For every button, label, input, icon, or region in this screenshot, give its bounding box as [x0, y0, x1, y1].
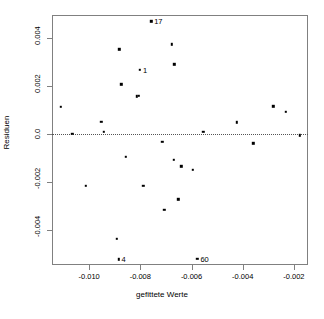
y-axis-tick-label: -0.004	[33, 223, 42, 237]
x-axis-tick	[294, 265, 295, 270]
data-point	[161, 140, 163, 142]
data-point	[298, 134, 300, 136]
data-point	[120, 83, 122, 85]
data-point	[139, 68, 141, 70]
y-axis-title: Residuen	[2, 103, 11, 163]
y-axis-tick	[47, 38, 52, 39]
plot-data-area: 171460	[52, 15, 308, 265]
x-axis-title: gefittete Werte	[0, 290, 324, 299]
x-axis-tick-label: -0.006	[181, 272, 202, 281]
y-axis-tick-label: -0.002	[33, 175, 42, 189]
data-point	[103, 131, 105, 133]
data-point	[71, 132, 73, 134]
data-point	[138, 94, 140, 96]
data-point	[60, 106, 62, 108]
point-index-label: 60	[200, 254, 208, 263]
x-axis-tick	[243, 265, 244, 270]
data-point	[85, 185, 87, 187]
data-point	[100, 121, 102, 123]
y-axis-tick-label: 0.0	[33, 127, 42, 141]
data-point	[202, 130, 204, 132]
x-axis-tick	[140, 265, 141, 270]
x-axis-tick	[192, 265, 193, 270]
data-point	[172, 159, 174, 161]
data-point	[150, 20, 152, 22]
x-axis-tick-label: -0.008	[130, 272, 151, 281]
x-axis-tick-label: -0.004	[232, 272, 253, 281]
data-point	[285, 110, 287, 112]
point-index-label: 17	[154, 17, 162, 26]
data-point	[142, 185, 144, 187]
y-axis-tick-label: 0.002	[33, 79, 42, 93]
residual-scatter-plot: 171460 -0.010-0.008-0.006-0.004-0.0020.0…	[0, 0, 324, 319]
y-axis-tick	[47, 86, 52, 87]
data-point	[117, 258, 119, 260]
data-point	[173, 63, 175, 65]
point-index-label: 4	[122, 255, 126, 264]
x-axis-tick-label: -0.010	[78, 272, 99, 281]
data-point	[180, 165, 182, 167]
data-point	[171, 43, 173, 45]
y-axis-tick	[47, 230, 52, 231]
data-point	[272, 105, 274, 107]
data-point	[235, 121, 237, 123]
data-point	[252, 142, 254, 144]
point-index-label: 1	[143, 65, 147, 74]
zero-reference-line	[52, 134, 308, 135]
data-point	[163, 209, 165, 211]
y-axis-tick	[47, 134, 52, 135]
data-point	[196, 257, 198, 259]
data-point	[177, 198, 179, 200]
x-axis-tick	[89, 265, 90, 270]
data-point	[125, 155, 127, 157]
data-point	[118, 48, 120, 50]
x-axis-tick-label: -0.002	[283, 272, 304, 281]
y-axis-tick	[47, 182, 52, 183]
data-point	[191, 168, 193, 170]
y-axis-tick-label: 0.004	[33, 31, 42, 45]
data-point	[115, 237, 117, 239]
